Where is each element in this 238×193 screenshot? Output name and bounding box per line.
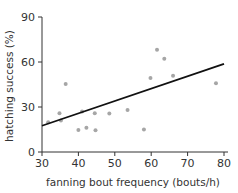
- trendline: [42, 64, 224, 126]
- x-tick-label: 40: [71, 157, 85, 170]
- data-point: [148, 76, 152, 80]
- data-point: [84, 126, 88, 130]
- axes: 0306090304050607080: [21, 11, 231, 170]
- data-point: [155, 48, 159, 52]
- y-axis-label: hatching success (%): [3, 30, 15, 142]
- data-point: [142, 128, 146, 132]
- y-tick-label: 90: [21, 11, 35, 24]
- y-tick-label: 60: [21, 56, 35, 69]
- data-points: [46, 48, 218, 133]
- scatter-chart: 0306090304050607080 fanning bout frequen…: [0, 0, 238, 193]
- data-point: [171, 74, 175, 78]
- y-tick-label: 30: [21, 101, 35, 114]
- x-tick-label: 60: [144, 157, 158, 170]
- regression-line: [42, 64, 224, 126]
- x-tick-label: 70: [181, 157, 195, 170]
- x-tick-label: 80: [217, 157, 231, 170]
- x-tick-label: 50: [108, 157, 122, 170]
- data-point: [162, 57, 166, 61]
- data-point: [94, 128, 98, 132]
- data-point: [214, 81, 218, 85]
- data-point: [57, 111, 61, 115]
- x-axis-label: fanning bout frequency (bouts/h): [46, 176, 220, 188]
- data-point: [93, 111, 97, 115]
- data-point: [107, 112, 111, 116]
- data-point: [126, 108, 130, 112]
- x-tick-label: 30: [35, 157, 49, 170]
- y-tick-label: 0: [28, 146, 35, 159]
- data-point: [64, 82, 68, 86]
- data-point: [76, 128, 80, 132]
